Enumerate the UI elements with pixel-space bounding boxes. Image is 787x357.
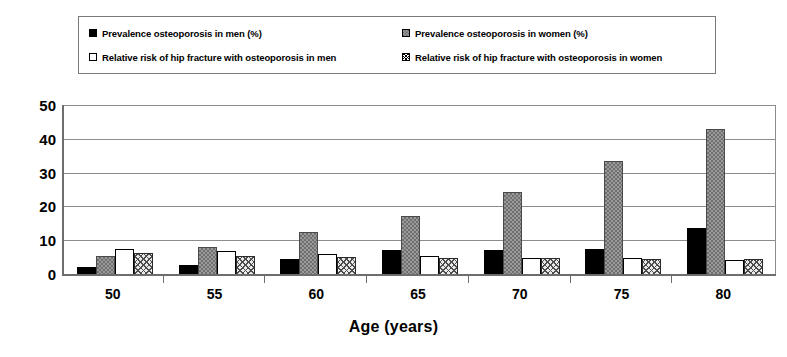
x-axis-tick-label: 75	[571, 286, 673, 302]
legend-label: Relative risk of hip fracture with osteo…	[415, 52, 662, 63]
x-axis-tick	[469, 274, 571, 284]
bar	[744, 259, 763, 274]
bar-group	[267, 105, 369, 274]
x-axis-title: Age (years)	[0, 318, 787, 336]
y-axis-tick-label: 0	[48, 267, 56, 282]
bar	[585, 249, 604, 274]
x-axis-tick	[672, 274, 774, 284]
bar	[299, 232, 318, 274]
legend-label: Prevalence osteoporosis in men (%)	[102, 28, 262, 39]
bar	[401, 216, 420, 274]
legend-item: Prevalence osteoporosis in women (%)	[402, 28, 715, 39]
bar-group	[674, 105, 776, 274]
bar	[217, 251, 236, 274]
x-axis-tick	[164, 274, 266, 284]
bar	[236, 256, 255, 274]
legend-swatch-icon	[89, 53, 97, 61]
bar	[280, 259, 299, 274]
bar	[642, 259, 661, 274]
bar	[687, 228, 706, 274]
x-axis-tick-label: 55	[164, 286, 266, 302]
bar	[337, 257, 356, 274]
bar	[484, 250, 503, 274]
y-axis-tick-label: 50	[39, 98, 56, 113]
x-axis-tick-label: 70	[469, 286, 571, 302]
x-axis-tick-label: 80	[672, 286, 774, 302]
legend-item: Prevalence osteoporosis in men (%)	[89, 28, 402, 39]
bar	[522, 258, 541, 274]
legend-swatch-icon	[402, 53, 410, 61]
bar-group	[64, 105, 166, 274]
legend-swatch-icon	[402, 29, 410, 37]
bar	[382, 250, 401, 274]
x-axis-tick-label: 50	[62, 286, 164, 302]
bar	[541, 258, 560, 274]
bar	[77, 267, 96, 274]
bar	[604, 161, 623, 274]
x-axis-tick	[62, 274, 164, 284]
plot-area	[62, 105, 776, 276]
bar-group	[471, 105, 573, 274]
bar	[725, 260, 744, 274]
x-axis-tick	[265, 274, 367, 284]
bar	[115, 249, 134, 274]
legend-label: Prevalence osteoporosis in women (%)	[415, 28, 588, 39]
y-axis-tick-label: 40	[39, 131, 56, 146]
legend-swatch-icon	[89, 29, 97, 37]
y-axis-tick-label: 30	[39, 165, 56, 180]
bar	[439, 258, 458, 274]
y-axis-tick-label: 10	[39, 233, 56, 248]
x-axis-tick	[571, 274, 673, 284]
bar	[706, 129, 725, 274]
x-axis-tick	[367, 274, 469, 284]
bar	[96, 256, 115, 274]
bar-group	[573, 105, 675, 274]
bar	[623, 258, 642, 274]
y-axis-tick-label: 20	[39, 199, 56, 214]
bar	[503, 192, 522, 274]
legend-item: Relative risk of hip fracture with osteo…	[402, 52, 715, 63]
legend-label: Relative risk of hip fracture with osteo…	[102, 52, 336, 63]
x-axis-ticks	[62, 274, 774, 284]
chart-plot: 01020304050 50556065707580	[0, 92, 787, 292]
legend-items: Prevalence osteoporosis in men (%)Preval…	[79, 17, 715, 73]
bar-group	[369, 105, 471, 274]
bar	[420, 256, 439, 274]
x-axis-tick-label: 65	[367, 286, 469, 302]
bar-groups	[64, 105, 776, 274]
legend-item: Relative risk of hip fracture with osteo…	[89, 52, 402, 63]
chart-legend: Prevalence osteoporosis in men (%)Preval…	[78, 16, 716, 74]
bar	[318, 254, 337, 274]
bar	[198, 247, 217, 274]
x-axis-tick-label: 60	[265, 286, 367, 302]
y-axis-tick-labels: 01020304050	[22, 92, 56, 272]
bar	[134, 253, 153, 274]
bar	[179, 265, 198, 274]
bar-group	[166, 105, 268, 274]
x-axis-tick-labels: 50556065707580	[62, 286, 774, 302]
